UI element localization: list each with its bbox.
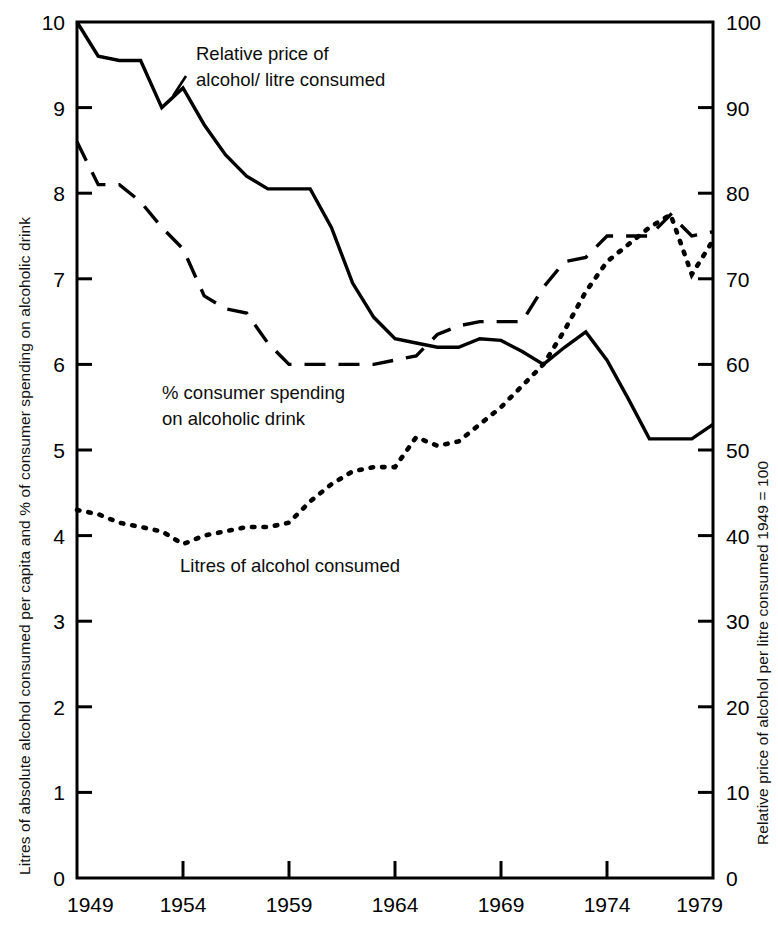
y-tick-label-right: 50 — [726, 439, 749, 462]
y-axis-left-tick-labels: 012345678910 — [42, 11, 66, 890]
y-tick-label-right: 40 — [726, 525, 749, 548]
x-tick-label: 1954 — [160, 893, 207, 916]
y-tick-label-right: 60 — [726, 353, 749, 376]
y-tick-label-right: 90 — [726, 97, 749, 120]
x-tick-label: 1949 — [67, 893, 114, 916]
y-axis-left-title: Litres of absolute alcohol consumed per … — [16, 217, 33, 875]
y-tick-label-left: 6 — [53, 353, 65, 376]
y-tick-label-left: 7 — [53, 268, 65, 291]
y-tick-label-left: 1 — [53, 781, 65, 804]
y-tick-label-left: 2 — [53, 696, 65, 719]
y-tick-label-right: 0 — [726, 867, 738, 890]
x-tick-label: 1974 — [584, 893, 631, 916]
chart-svg: 012345678910 0102030405060708090100 1949… — [0, 0, 778, 935]
y-tick-label-right: 20 — [726, 696, 749, 719]
x-tick-label: 1979 — [676, 893, 723, 916]
y-tick-label-left: 5 — [53, 439, 65, 462]
y-tick-label-right: 70 — [726, 268, 749, 291]
consumer-spending-label-line: on alcoholic drink — [162, 408, 306, 429]
relative-price-label-line: Relative price of — [196, 43, 330, 64]
y-tick-label-right: 80 — [726, 182, 749, 205]
y-tick-label-left: 9 — [53, 97, 65, 120]
y-tick-label-left: 8 — [53, 182, 65, 205]
y-tick-label-right: 100 — [726, 11, 761, 34]
relative-price-label-line: alcohol/ litre consumed — [196, 69, 385, 90]
x-axis-tick-labels: 1949195419591964196919741979 — [67, 893, 723, 916]
litres-consumed-label-line: Litres of alcohol consumed — [180, 555, 400, 576]
x-tick-label: 1964 — [372, 893, 419, 916]
plot-frame — [77, 22, 713, 878]
y-tick-label-left: 0 — [53, 867, 65, 890]
chart-figure: 012345678910 0102030405060708090100 1949… — [0, 0, 778, 935]
consumer-spending-label-line: % consumer spending — [162, 382, 345, 403]
y-axis-right-title: Relative price of alcohol per litre cons… — [754, 461, 771, 845]
x-tick-label: 1959 — [266, 893, 313, 916]
y-tick-label-right: 10 — [726, 781, 749, 804]
litres-consumed-label: Litres of alcohol consumed — [180, 555, 400, 576]
y-tick-label-left: 3 — [53, 610, 65, 633]
y-tick-label-left: 4 — [53, 525, 65, 548]
x-tick-label: 1969 — [478, 893, 525, 916]
y-tick-label-left: 10 — [42, 11, 65, 34]
y-tick-label-right: 30 — [726, 610, 749, 633]
